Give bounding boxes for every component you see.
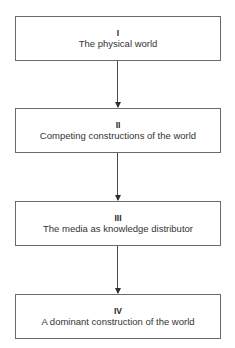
box-label: The physical world (79, 38, 158, 50)
box-label: A dominant construction of the world (41, 316, 194, 328)
box-numeral: II (116, 120, 121, 130)
arrow-down-connector (117, 246, 118, 293)
box-media-knowledge-distributor: III The media as knowledge distributor (15, 201, 221, 246)
box-numeral: IV (114, 306, 122, 316)
arrow-down-connector (117, 61, 118, 107)
box-label: The media as knowledge distributor (43, 223, 193, 235)
box-numeral: III (114, 213, 121, 223)
box-numeral: I (117, 28, 119, 38)
box-physical-world: I The physical world (15, 16, 221, 61)
box-label: Competing constructions of the world (40, 130, 196, 142)
box-dominant-construction: IV A dominant construction of the world (15, 294, 221, 339)
arrow-down-connector (117, 153, 118, 200)
box-competing-constructions: II Competing constructions of the world (15, 108, 221, 153)
